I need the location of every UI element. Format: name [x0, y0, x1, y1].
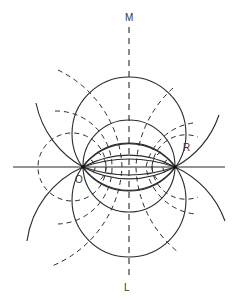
orthogonal-circles-diagram — [0, 0, 239, 302]
label-m: M — [125, 13, 133, 23]
label-l: L — [124, 283, 130, 293]
dashed-right-large — [136, 88, 178, 252]
point-r-marker — [173, 165, 177, 169]
label-r: R — [183, 143, 190, 153]
point-o-marker — [81, 165, 85, 169]
circle-diameter-or — [83, 120, 175, 212]
arc-outer-lower — [27, 155, 225, 241]
label-o: O — [75, 175, 83, 185]
